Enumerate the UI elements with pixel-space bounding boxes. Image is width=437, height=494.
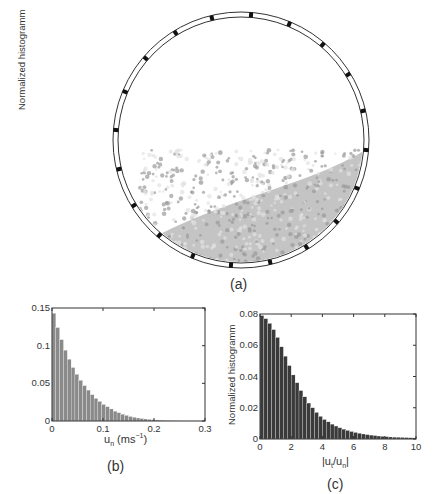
grain [256, 184, 259, 187]
grain [157, 256, 161, 260]
grain [357, 149, 360, 152]
y-tick-label: 0.04 [240, 371, 259, 382]
grain [171, 168, 174, 171]
grain [273, 202, 276, 205]
grain [207, 194, 212, 199]
grain [361, 167, 365, 171]
grain [365, 226, 369, 230]
lifter [333, 218, 339, 224]
grain [363, 192, 367, 196]
grain [355, 168, 358, 171]
lifter [116, 167, 122, 172]
grain [221, 179, 224, 182]
grain [315, 187, 319, 191]
grain [156, 254, 159, 257]
histogram-bar [319, 416, 323, 439]
grain [348, 239, 351, 242]
grain [319, 254, 322, 257]
grain [175, 259, 180, 264]
grain [351, 226, 355, 230]
grain [241, 196, 245, 200]
grain [181, 227, 184, 230]
grain [355, 221, 359, 225]
grain [202, 153, 206, 157]
grain [297, 232, 302, 237]
histogram-bar [86, 390, 90, 421]
grain [304, 238, 307, 241]
grain [186, 235, 189, 238]
grain [312, 189, 316, 193]
grain [201, 244, 205, 248]
grain [348, 155, 352, 159]
grain [260, 199, 263, 202]
grain [326, 196, 330, 200]
grain [195, 211, 198, 214]
caption-c: (c) [327, 476, 343, 492]
grain [258, 234, 262, 238]
grain [207, 160, 211, 164]
y-tick-label: 0.02 [240, 402, 259, 413]
grain [303, 217, 306, 220]
grain [290, 253, 293, 256]
grain [176, 155, 180, 159]
grain [147, 171, 151, 175]
grain [343, 190, 346, 193]
lifter [268, 259, 273, 265]
histogram-bar [268, 323, 272, 439]
grain [334, 153, 336, 155]
grain [340, 198, 343, 201]
grain [343, 152, 346, 155]
grain [244, 176, 247, 179]
grain [334, 232, 337, 235]
y-tick-label: 0.08 [240, 308, 259, 319]
grain [359, 233, 362, 236]
grain [165, 175, 168, 178]
grain [261, 193, 265, 197]
histogram-bar [125, 415, 129, 421]
grain [351, 265, 354, 268]
grain [182, 264, 185, 267]
grain [275, 194, 280, 199]
grain [230, 227, 234, 231]
grain [285, 227, 288, 230]
grain [170, 201, 173, 204]
grain [331, 179, 334, 182]
lifter [113, 128, 118, 132]
grain [186, 208, 191, 213]
x-tick-label: 0.3 [198, 423, 211, 434]
histogram-bar [264, 319, 268, 439]
grain [362, 183, 365, 186]
grain [220, 191, 223, 194]
grain [234, 236, 237, 239]
grain [329, 183, 333, 187]
grain [326, 177, 331, 182]
grain [154, 223, 157, 226]
grain [261, 239, 265, 243]
grain [257, 211, 262, 216]
grain [356, 209, 359, 212]
grain [270, 217, 272, 219]
grain [306, 216, 309, 219]
grain [321, 235, 324, 238]
grain [266, 179, 270, 183]
grain [191, 262, 194, 265]
grain [155, 245, 158, 248]
grain [181, 260, 185, 264]
grain [336, 183, 339, 186]
histogram-bar [326, 422, 330, 439]
histogram-bar [90, 395, 94, 421]
x-tick-label: 6 [351, 441, 356, 452]
grain [150, 191, 153, 194]
grain [227, 157, 230, 160]
grain [170, 179, 174, 183]
lifter [319, 41, 325, 47]
grain [346, 232, 350, 236]
grain [330, 238, 334, 242]
grain [194, 174, 197, 177]
grain [144, 206, 148, 210]
grain [139, 239, 144, 244]
grain [215, 172, 218, 175]
grain [147, 216, 150, 219]
grain [290, 243, 294, 247]
grain [218, 150, 223, 155]
